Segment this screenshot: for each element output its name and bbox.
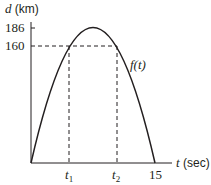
y-tick-label-186: 186 [5, 20, 25, 35]
curve-f-of-t [31, 28, 155, 164]
x-axis-label: t (sec) [176, 155, 210, 170]
x-tick-label-t2: t2 [112, 167, 120, 184]
y-axis-label: d (km) [5, 1, 39, 16]
x-tick-label-15: 15 [149, 167, 162, 182]
curve-label: f(t) [130, 57, 146, 72]
chart-svg: d (km) 186 160 f(t) t1 t2 15 t (sec) [0, 0, 211, 185]
y-tick-label-160: 160 [5, 38, 25, 53]
chart-figure: d (km) 186 160 f(t) t1 t2 15 t (sec) [0, 0, 211, 185]
x-tick-label-t1: t1 [65, 167, 73, 184]
